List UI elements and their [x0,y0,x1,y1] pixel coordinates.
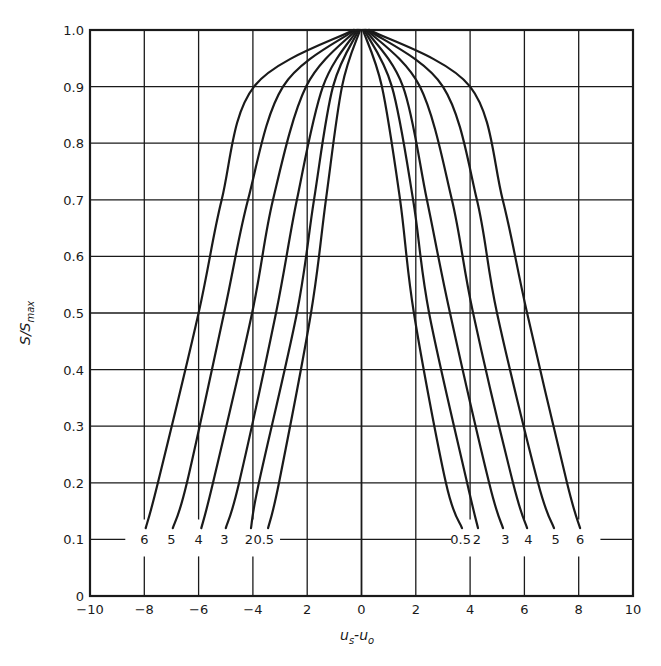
curve-3-left [226,30,358,528]
curve-label-left: 4 [194,532,202,547]
curve-label-right: 4 [524,532,532,547]
curve-6-right [370,30,580,528]
y-axis-title: S/Smax [17,301,36,345]
y-tick-label: 0.3 [63,419,84,434]
curve-label-left: 6 [140,532,148,547]
y-tick-label: 0.9 [63,80,84,95]
curve-label-right: 0.5 [450,532,471,547]
curve-label-left: 5 [167,532,175,547]
curve-4-right [367,30,527,528]
curve-label-right: 2 [473,532,481,547]
curve-label-left: 2 [245,532,253,547]
y-tick-label: 0.1 [63,532,84,547]
curve-0_5-right [363,30,462,528]
y-tick-label: 1.0 [63,23,84,38]
grid-lines [90,30,633,596]
y-tick-label: 0.8 [63,136,84,151]
y-tick-label: 0.7 [63,193,84,208]
y-tick-label: 0.5 [63,306,84,321]
y-tick-label: 0.2 [63,476,84,491]
x-tick-label: 8 [575,602,583,617]
curve-5-left [173,30,355,528]
x-tick-label: 0 [357,602,365,617]
curve-2-left [251,30,359,528]
curve-label-left: 3 [220,532,228,547]
curve-4-left [201,30,356,528]
x-axis-title: us-uo [340,627,374,646]
y-tick-label: 0.6 [63,249,84,264]
curve-label-right: 5 [551,532,559,547]
curve-6-left [146,30,354,528]
curve-2-right [364,30,478,528]
curve-label-right: 3 [501,532,509,547]
x-tick-label: −6 [189,602,208,617]
curve-label-right: 6 [576,532,584,547]
chart: −10−8−6−42024681000.10.20.30.40.50.60.70… [0,0,661,666]
curves [146,30,580,528]
x-tick-label: 6 [520,602,528,617]
y-tick-label: 0 [76,589,84,604]
curve-label-left: 0.5 [253,532,274,547]
x-tick-label: 2 [412,602,420,617]
y-tick-label: 0.4 [63,363,84,378]
x-tick-label: −10 [76,602,103,617]
x-tick-label: −8 [135,602,154,617]
x-tick-label: 2 [303,602,311,617]
x-tick-label: −4 [243,602,262,617]
x-tick-label: 4 [466,602,474,617]
x-tick-label: 10 [625,602,642,617]
